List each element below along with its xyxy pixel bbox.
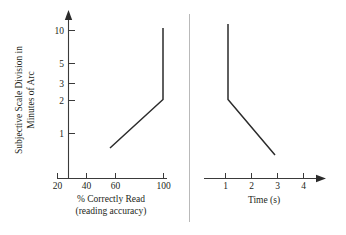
right-x-tick-label-1: 1 [223, 181, 228, 191]
right-x-tick-label-3: 3 [275, 181, 280, 191]
right-data-line [228, 24, 275, 155]
figure-container: 10 5 3 2 1 20 40 60 100 % Correctly Read… [0, 0, 346, 235]
right-x-axis-title: Time (s) [248, 195, 280, 206]
right-x-tick-label-2: 2 [249, 181, 254, 191]
left-x-tick-label-40: 40 [82, 181, 92, 191]
left-y-tick-label-10: 10 [55, 26, 65, 36]
right-panel: 1 2 3 4 Time (s) [204, 24, 326, 206]
left-x-tick-label-100: 100 [156, 181, 171, 191]
left-y-tick-label-3: 3 [59, 79, 64, 89]
left-y-axis-arrowhead [65, 10, 72, 20]
left-y-tick-label-1: 1 [59, 129, 64, 139]
right-x-tick-label-4: 4 [301, 181, 306, 191]
left-x-axis-subtitle: (reading accuracy) [76, 206, 147, 217]
left-y-axis-title: Subjective Scale Division in [14, 46, 24, 154]
left-y-tick-label-5: 5 [59, 59, 64, 69]
right-x-axis-arrowhead [316, 175, 326, 182]
left-y-tick-label-2: 2 [59, 96, 64, 106]
left-x-axis-title: % Correctly Read [77, 194, 145, 204]
left-data-line [110, 28, 163, 148]
chart-svg: 10 5 3 2 1 20 40 60 100 % Correctly Read… [0, 0, 346, 235]
left-x-tick-label-60: 60 [111, 181, 121, 191]
left-panel: 10 5 3 2 1 20 40 60 100 % Correctly Read… [14, 10, 171, 217]
left-y-axis-title-line2: Minutes of Arc [26, 71, 36, 129]
left-x-tick-label-20: 20 [53, 181, 63, 191]
